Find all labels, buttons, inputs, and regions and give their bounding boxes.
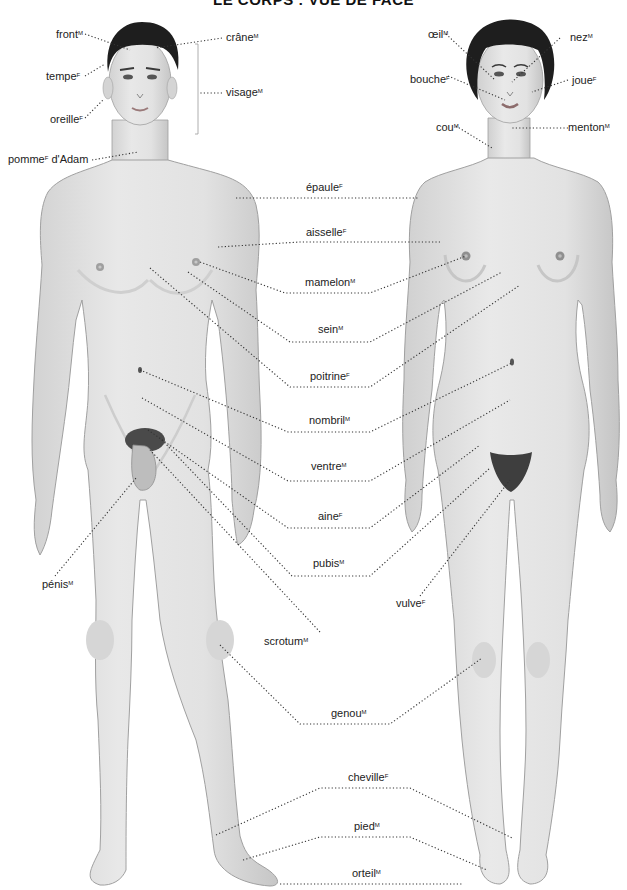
label-pomme-adam: pommeF d'Adam [8,153,88,166]
label-crane: crâneM [226,31,259,44]
male-body-front [32,22,278,886]
label-genou: genouM [331,707,367,720]
label-scrotum: scrotumM [264,635,308,648]
label-orteil: orteilM [352,867,381,880]
label-oreille: oreilleF [50,113,83,126]
label-nombril: nombrilM [309,414,350,427]
label-front: frontM [56,28,83,41]
label-poitrine: poitrineF [310,370,350,383]
female-body-front [403,20,620,885]
anatomy-diagram: LE CORPS : VUE DE FACE [0,0,627,890]
label-tempe: tempeF [46,70,80,83]
label-ventre: ventreM [311,460,347,473]
label-cheville: chevilleF [348,771,388,784]
label-mamelon: mamelonM [305,276,355,289]
label-aine: aineF [318,510,342,523]
label-penis: pénisM [42,578,73,591]
label-menton: mentonM [568,121,610,134]
label-bouche: boucheF [410,73,450,86]
label-oeil: œilM [428,28,448,41]
label-nez: nezM [570,31,593,44]
body-illustration [0,0,627,890]
label-visage: visageM [226,86,263,99]
label-joue: joueF [572,74,596,87]
label-aisselle: aisselleF [306,226,346,239]
label-sein: seinM [318,323,343,336]
label-pied: piedM [354,820,380,833]
label-cou: couM [436,121,459,134]
label-epaule: épauleF [306,181,343,194]
label-vulve: vulveF [396,597,425,610]
label-pubis: pubisM [313,557,344,570]
